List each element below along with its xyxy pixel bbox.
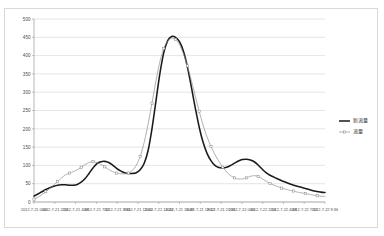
series-marker: [68, 172, 70, 174]
legend-marker-2: [343, 131, 345, 133]
series-marker: [292, 190, 294, 192]
series-marker: [245, 177, 247, 179]
series-marker: [163, 47, 165, 49]
series-marker: [92, 161, 94, 163]
series-marker: [198, 110, 200, 112]
series-marker: [281, 187, 283, 189]
series-marker: [316, 195, 318, 197]
chart-container: 050100150200250300350400450500 2012-7-21…: [4, 8, 378, 228]
series-2: [33, 38, 325, 200]
y-axis-tick-label: 50: [25, 181, 31, 186]
series-1: [34, 36, 325, 196]
y-axis-tick-label: 200: [23, 127, 31, 132]
series-marker: [174, 38, 176, 40]
series-marker: [151, 102, 153, 104]
gridlines-group: [32, 19, 325, 202]
series-marker: [269, 182, 271, 184]
data-series-group: [33, 36, 325, 200]
y-axis-tick-label: 300: [23, 90, 31, 95]
chart-legend: 新流量流量: [339, 117, 368, 135]
y-axis-tick-label: 500: [23, 17, 31, 22]
series-marker: [104, 166, 106, 168]
x-axis-tick-label: 2012-7-22 9:36: [312, 207, 338, 212]
line-chart: 050100150200250300350400450500 2012-7-21…: [5, 9, 379, 227]
series-marker: [186, 65, 188, 67]
series-marker: [33, 198, 35, 200]
series-line-1: [34, 36, 325, 196]
legend-label-2: 流量: [353, 128, 363, 135]
series-marker: [210, 145, 212, 147]
series-marker: [127, 172, 129, 174]
series-marker: [257, 175, 259, 177]
y-axis-tick-label: 100: [23, 163, 31, 168]
series-marker: [233, 177, 235, 179]
series-marker: [304, 192, 306, 194]
y-axis-tick-labels: 050100150200250300350400450500: [23, 17, 31, 205]
legend-label-1: 新流量: [353, 117, 368, 124]
series-marker: [45, 191, 47, 193]
y-axis-tick-label: 450: [23, 35, 31, 40]
series-marker: [80, 166, 82, 168]
y-axis-tick-label: 0: [28, 200, 31, 205]
series-marker: [139, 156, 141, 158]
series-line-2: [34, 38, 325, 199]
series-marker: [56, 180, 58, 182]
y-axis-tick-label: 250: [23, 108, 31, 113]
x-axis-tick-labels: 2012-7-21 0:002012-7-21 2:242012-7-21 4:…: [21, 207, 338, 212]
y-axis-tick-label: 350: [23, 72, 31, 77]
series-marker: [222, 166, 224, 168]
series-marker: [115, 172, 117, 174]
y-axis-tick-label: 400: [23, 53, 31, 58]
y-axis-tick-label: 150: [23, 145, 31, 150]
